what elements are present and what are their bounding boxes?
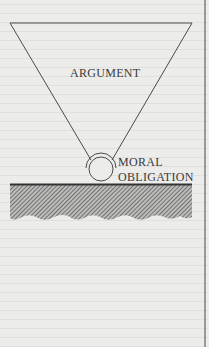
moral-obligation-circle (86, 153, 116, 181)
hatched-ground (10, 185, 192, 220)
moral-label: MORAL (118, 156, 163, 169)
argument-label: ARGUMENT (70, 67, 140, 80)
obligation-label: OBLIGATION (118, 171, 194, 184)
argument-triangle (10, 23, 192, 160)
